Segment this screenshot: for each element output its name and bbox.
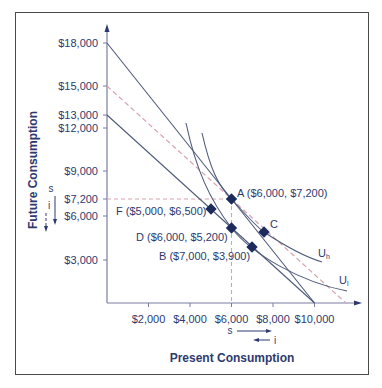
- y-tick-label: $6,000: [64, 210, 98, 222]
- x-tick-label: $4,000: [173, 313, 207, 325]
- x-axis-arrow-icon: [354, 301, 362, 306]
- point-f-label: F ($5,000, $6,500): [116, 205, 207, 217]
- x-tick-label: $2,000: [132, 313, 166, 325]
- ul-label: Ul: [339, 274, 349, 287]
- y-i-label: i: [48, 200, 50, 211]
- y-tick-label: $18,000: [58, 37, 98, 49]
- x-s-arrowhead-icon: [266, 329, 272, 333]
- y-axis-arrow-icon: [105, 24, 110, 32]
- point-a-label: A ($6,000, $7,200): [237, 187, 328, 199]
- point-b-label: B ($7,000, $3,900): [159, 250, 250, 262]
- x-i-arrowhead-icon: [253, 338, 259, 342]
- budget-line-high: [107, 43, 315, 303]
- y-tick-label: $12,000: [58, 122, 98, 134]
- y-s-label: s: [49, 183, 54, 194]
- y-tick-label: $9,000: [64, 165, 98, 177]
- y-s-arrowhead-icon: [53, 219, 57, 225]
- point-c-label: C: [270, 218, 278, 230]
- point-d-label: D ($6,000, $5,200): [136, 231, 228, 243]
- y-axis-title: Future Consumption: [26, 111, 40, 229]
- x-tick-label: $8,000: [256, 313, 290, 325]
- data-points: [205, 193, 269, 252]
- y-tick-label: $3,000: [64, 254, 98, 266]
- y-tick-label: $13,000: [58, 109, 98, 121]
- point-c-marker: [258, 226, 269, 237]
- x-i-label: i: [274, 335, 276, 346]
- y-i-arrowhead-icon: [44, 226, 48, 232]
- y-tick-label: $15,000: [58, 80, 98, 92]
- y-tick-label: $7,200: [64, 193, 98, 205]
- x-axis-title: Present Consumption: [170, 351, 295, 365]
- chart-svg: $18,000 $15,000 $13,000 $12,000 $9,000 $…: [0, 0, 382, 388]
- x-s-label: s: [228, 325, 233, 336]
- axes: [105, 24, 363, 306]
- uh-label: Uh: [318, 247, 330, 260]
- x-tick-label: $6,000: [215, 313, 249, 325]
- x-tick-label: $10,000: [295, 313, 335, 325]
